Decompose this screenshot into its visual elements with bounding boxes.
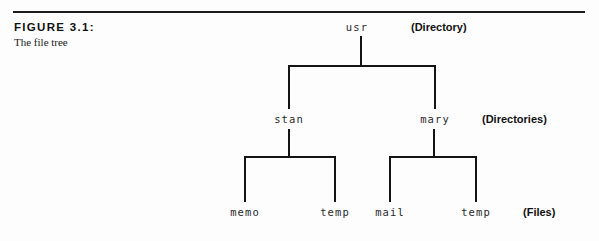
top-rule-divider [13,11,585,13]
connector-level1-crossbar [288,65,436,67]
figure-caption-block: FIGURE 3.1: The file tree [14,20,184,50]
annotation-files: (Files) [523,206,555,218]
connector-mary-children-crossbar [389,156,477,158]
connector-drop-stan [288,65,290,109]
connector-drop-mary [434,65,436,109]
figure-label: FIGURE 3.1: [14,20,184,34]
connector-stan-children-crossbar [244,156,336,158]
figure-caption-text: The file tree [14,35,184,50]
connector-drop-temp-left [334,156,336,202]
tree-node-mail: mail [375,206,405,218]
connector-drop-mail [389,156,391,202]
tree-node-usr: usr [346,21,368,33]
figure-page: FIGURE 3.1: The file tree usr (Directory… [0,0,599,241]
connector-mary-stem [433,129,435,157]
tree-node-temp-left: temp [320,206,350,218]
tree-node-memo: memo [230,206,260,218]
connector-usr-stem [360,36,362,66]
connector-stan-stem [288,129,290,157]
annotation-directories: (Directories) [482,113,547,125]
connector-drop-temp-right [475,156,477,202]
tree-node-stan: stan [274,113,304,125]
annotation-directory: (Directory) [411,21,467,33]
tree-node-mary: mary [420,113,450,125]
tree-node-temp-right: temp [461,206,491,218]
connector-drop-memo [244,156,246,202]
